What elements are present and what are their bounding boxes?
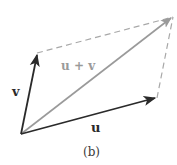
u-vector-arrow — [21, 98, 155, 134]
sum-vector-arrow — [21, 18, 171, 134]
caption: (b) — [83, 145, 100, 159]
v-label: v — [11, 84, 20, 99]
u-label: u — [91, 120, 100, 135]
dashed-side-top — [37, 17, 173, 53]
v-vector-arrow — [21, 55, 37, 134]
sum-label: u + v — [61, 59, 96, 73]
vector-addition-diagram: v u + v u (b) — [0, 0, 177, 165]
dashed-side-right — [157, 17, 173, 98]
